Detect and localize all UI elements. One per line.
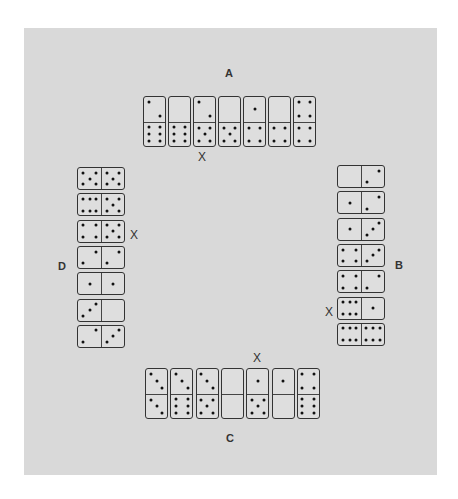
label-b: B: [392, 259, 406, 271]
pip-icon: [378, 169, 381, 172]
pip-icon: [172, 126, 175, 129]
pip-icon: [180, 380, 183, 383]
label-c: C: [223, 432, 237, 444]
pip-icon: [301, 412, 304, 415]
pip-icon: [159, 126, 162, 129]
pip-icon: [309, 101, 312, 104]
domino-half: [222, 394, 243, 419]
pip-icon: [174, 398, 177, 401]
pip-icon: [250, 398, 253, 401]
pip-icon: [197, 126, 200, 129]
domino-half: [169, 122, 190, 147]
domino-tile: [337, 270, 385, 293]
pip-icon: [159, 133, 162, 136]
pip-icon: [105, 209, 108, 212]
pip-icon: [259, 139, 262, 142]
pip-icon: [94, 183, 97, 186]
domino-half: [338, 219, 361, 240]
pip-icon: [174, 405, 177, 408]
domino-tile: [337, 191, 385, 214]
domino-half: [294, 122, 315, 147]
domino-tile: [337, 218, 385, 241]
pip-icon: [355, 312, 358, 315]
domino-half: [273, 369, 294, 394]
marker-c: X: [251, 352, 263, 364]
pip-icon: [206, 405, 209, 408]
domino-tile: [297, 368, 320, 419]
pip-icon: [256, 405, 259, 408]
domino-tile: [196, 368, 219, 419]
pip-icon: [172, 133, 175, 136]
label-a: A: [222, 67, 236, 79]
pip-icon: [186, 412, 189, 415]
pip-icon: [259, 126, 262, 129]
domino-half: [361, 219, 384, 240]
pip-icon: [81, 209, 84, 212]
domino-tile: [77, 325, 125, 348]
pip-icon: [234, 126, 237, 129]
pip-icon: [354, 248, 357, 251]
pip-icon: [105, 171, 108, 174]
pip-icon: [355, 301, 358, 304]
pip-icon: [174, 373, 177, 376]
pip-icon: [82, 171, 85, 174]
pip-icon: [118, 329, 121, 332]
pip-icon: [203, 133, 206, 136]
pip-icon: [197, 139, 200, 142]
domino-half: [361, 245, 384, 266]
pip-icon: [82, 314, 85, 317]
domino-half: [78, 247, 101, 268]
domino-tile: [77, 167, 125, 190]
pip-icon: [365, 260, 368, 263]
pip-icon: [372, 228, 375, 231]
domino-tile: [193, 96, 216, 147]
pip-icon: [342, 260, 345, 263]
pip-icon: [309, 115, 312, 118]
pip-icon: [118, 183, 121, 186]
pip-icon: [342, 286, 345, 289]
pip-icon: [105, 197, 108, 200]
domino-half: [78, 221, 101, 242]
pip-icon: [161, 411, 164, 414]
domino-tile: [77, 246, 125, 269]
domino-half: [78, 194, 101, 215]
pip-icon: [365, 207, 368, 210]
domino-half: [294, 97, 315, 122]
pip-icon: [112, 335, 115, 338]
pip-icon: [112, 177, 115, 180]
domino-half: [361, 324, 384, 345]
pip-icon: [94, 224, 97, 227]
pip-icon: [105, 224, 108, 227]
pip-icon: [184, 126, 187, 129]
domino-half: [338, 271, 361, 292]
pip-icon: [155, 380, 158, 383]
pip-icon: [209, 115, 212, 118]
pip-icon: [211, 411, 214, 414]
label-d: D: [55, 260, 69, 272]
pip-icon: [82, 341, 85, 344]
pip-icon: [313, 387, 316, 390]
pip-icon: [174, 412, 177, 415]
pip-icon: [211, 387, 214, 390]
pip-icon: [365, 286, 368, 289]
domino-tile: [77, 220, 125, 243]
pip-icon: [94, 235, 97, 238]
domino-half: [197, 394, 218, 419]
domino-tile: [221, 368, 244, 419]
pip-icon: [184, 133, 187, 136]
pip-icon: [365, 181, 368, 184]
domino-tile: [77, 272, 125, 295]
pip-icon: [94, 329, 97, 332]
domino-half: [146, 394, 167, 419]
pip-icon: [348, 301, 351, 304]
pip-icon: [82, 235, 85, 238]
pip-icon: [354, 286, 357, 289]
pip-icon: [82, 224, 85, 227]
domino-tile: [143, 96, 166, 147]
pip-icon: [378, 248, 381, 251]
pip-icon: [105, 183, 108, 186]
domino-tile: [168, 96, 191, 147]
pip-icon: [341, 301, 344, 304]
pip-icon: [313, 405, 316, 408]
domino-half: [101, 273, 124, 294]
